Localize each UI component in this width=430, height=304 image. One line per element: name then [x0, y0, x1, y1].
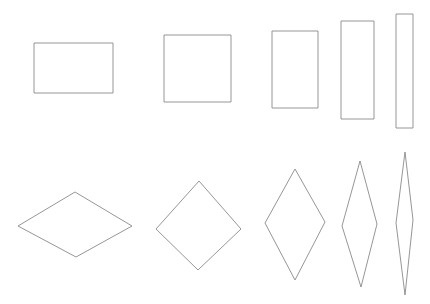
rectangle-3: [272, 31, 318, 108]
rhombus-4: [342, 161, 377, 287]
rectangles-row: [34, 14, 413, 128]
shape-figure-canvas: [0, 0, 430, 304]
rectangle-1: [34, 43, 113, 93]
shapes-svg: [0, 0, 430, 304]
rectangle-5: [396, 14, 413, 128]
rhombus-1: [18, 192, 132, 257]
rhombus-3: [265, 169, 325, 280]
rhombus-5: [396, 152, 413, 295]
rectangle-4: [341, 21, 374, 119]
rhombi-row: [18, 152, 413, 295]
rectangle-2: [164, 35, 231, 102]
rhombus-2: [156, 181, 241, 270]
